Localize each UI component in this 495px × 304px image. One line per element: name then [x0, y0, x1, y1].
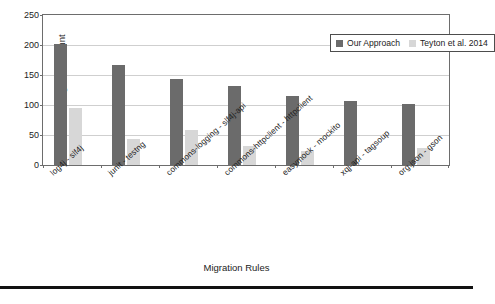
x-tick-mark [448, 165, 449, 168]
y-tick-label: 100 [24, 100, 39, 110]
chart-plot-area: Migration Count 050100150200250 Our Appr… [42, 14, 450, 166]
y-tick-label: 150 [24, 70, 39, 80]
page-divider-rule [0, 286, 473, 289]
bar [54, 44, 67, 165]
chart-legend: Our Approach Teyton et al. 2014 [330, 34, 495, 52]
legend-label: Our Approach [347, 38, 400, 48]
y-tick-label: 200 [24, 40, 39, 50]
bar-group [43, 15, 101, 165]
legend-swatch-icon [409, 40, 416, 47]
bar-group [101, 15, 159, 165]
y-tick-label: 0 [34, 160, 39, 170]
x-tick-mark [101, 165, 102, 168]
bar [112, 65, 125, 165]
legend-label: Teyton et al. 2014 [420, 38, 488, 48]
x-tick-mark [275, 165, 276, 168]
legend-swatch-icon [336, 40, 343, 47]
x-tick-mark [43, 165, 44, 168]
x-tick-mark [333, 165, 334, 168]
y-tick-label: 50 [29, 130, 39, 140]
x-tick-mark [159, 165, 160, 168]
y-tick-label: 250 [24, 10, 39, 20]
x-tick-mark [217, 165, 218, 168]
x-tick-mark [391, 165, 392, 168]
x-axis-title: Migration Rules [0, 262, 473, 273]
bar [170, 79, 183, 165]
legend-item-teyton: Teyton et al. 2014 [409, 38, 488, 48]
legend-item-our-approach: Our Approach [336, 38, 400, 48]
